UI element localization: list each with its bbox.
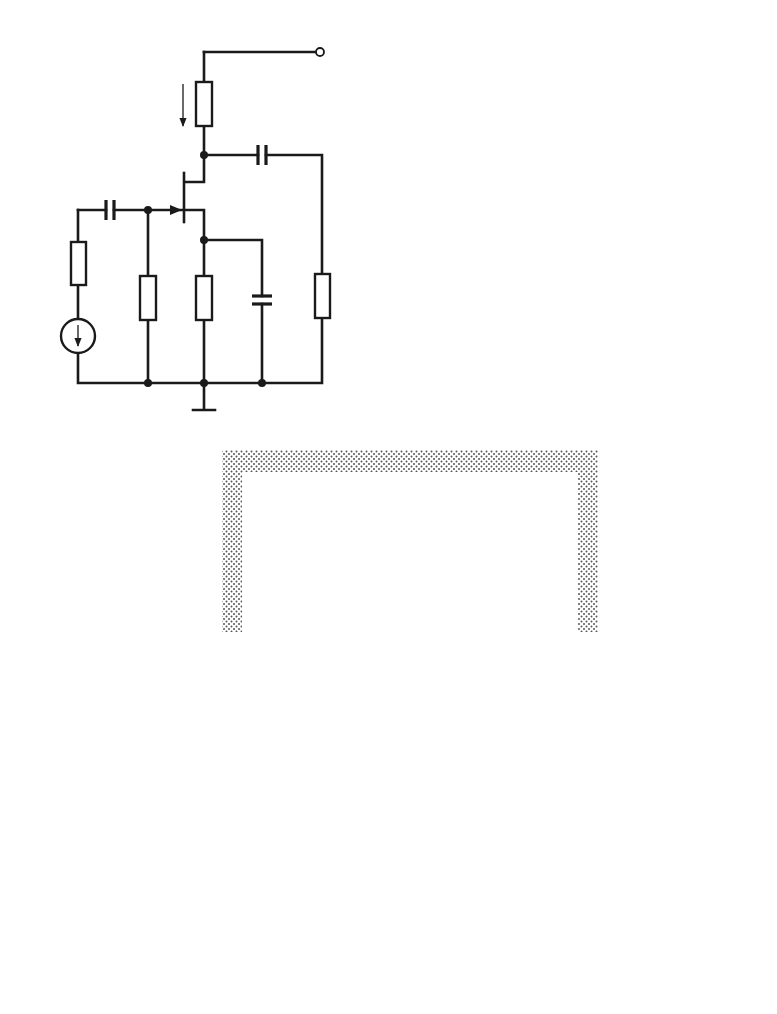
resistor-rs (196, 276, 212, 320)
jfet-drain-lead (186, 155, 204, 182)
panel-a (0, 0, 330, 410)
resistor-rl (315, 274, 330, 318)
ground-icon (193, 383, 215, 410)
jfet-gate-arrow-icon (170, 205, 182, 215)
node-bottom-3 (258, 379, 266, 387)
panel-b (222, 450, 598, 632)
circuit-figure (0, 0, 777, 1014)
transistor-shade-right (578, 472, 598, 632)
resistor-r1 (140, 276, 156, 320)
node-bottom-1 (144, 379, 152, 387)
supply-terminal (316, 48, 324, 56)
transistor-shade-top (222, 450, 598, 472)
jfet-source-lead (186, 210, 204, 240)
transistor-shade-left (222, 472, 242, 632)
resistor-rg (71, 242, 86, 285)
resistor-rd (196, 82, 212, 126)
